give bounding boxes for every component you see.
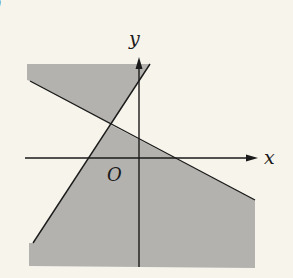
y-axis-label: y: [128, 27, 140, 49]
inequality-graph: x y O ): [0, 0, 293, 278]
corner-mark: ): [0, 0, 1, 14]
y-axis-arrow-icon: [136, 57, 143, 69]
x-axis-arrow-icon: [246, 155, 258, 162]
upper-left-shaded-region: [27, 64, 150, 125]
origin-label: O: [107, 164, 122, 185]
x-axis-label: x: [264, 146, 275, 168]
